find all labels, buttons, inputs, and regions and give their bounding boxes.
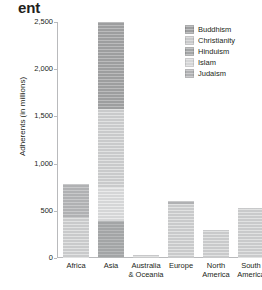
legend-label: Hinduism <box>198 47 229 56</box>
bar-segment-christianity[interactable] <box>63 218 89 258</box>
legend-rows: BuddhismChristianityHinduismIslamJudaism <box>185 24 235 79</box>
y-axis-label: Adherents (in millions) <box>18 47 27 187</box>
bar-segment-buddhism[interactable] <box>98 22 124 109</box>
legend-label: Judaism <box>198 69 226 78</box>
legend-swatch-islam <box>185 58 194 67</box>
bar-segment-christianity[interactable] <box>168 204 194 258</box>
bar-north-america[interactable] <box>203 230 229 258</box>
y-tick-label: 2,500 <box>34 18 53 26</box>
legend-item-islam[interactable]: Islam <box>185 57 235 68</box>
bar-south-america[interactable] <box>238 208 262 258</box>
x-tick-label-line2: America <box>225 271 262 280</box>
legend-item-christianity[interactable]: Christianity <box>185 35 235 46</box>
legend-label: Buddhism <box>198 25 231 34</box>
bar-segment-hinduism[interactable] <box>98 221 124 258</box>
legend-swatch-judaism <box>185 69 194 78</box>
y-tick-label: 500 <box>40 207 53 215</box>
bar-segment-christianity[interactable] <box>133 256 159 258</box>
legend-swatch-christianity <box>185 36 194 45</box>
y-tick-mark <box>54 258 57 259</box>
bar-segment-islam[interactable] <box>98 188 124 221</box>
x-tick-label-line2: & Oceania <box>120 271 172 280</box>
y-tick-label: 1,000 <box>34 160 53 168</box>
bar-segment-christianity[interactable] <box>98 109 124 188</box>
bar-segment-judaism[interactable] <box>63 184 89 218</box>
y-tick-mark <box>54 164 57 165</box>
x-tick-label: SouthAmerica <box>225 262 262 279</box>
y-tick-mark <box>54 69 57 70</box>
y-tick-label: 1,500 <box>34 113 53 121</box>
legend-item-buddhism[interactable]: Buddhism <box>185 24 235 35</box>
y-tick-label: 2,000 <box>34 65 53 73</box>
bar-asia[interactable] <box>98 22 124 258</box>
bar-segment-christianity[interactable] <box>238 209 262 258</box>
bar-segment-christianity[interactable] <box>203 231 229 258</box>
legend-item-hinduism[interactable]: Hinduism <box>185 46 235 57</box>
legend-label: Christianity <box>198 36 235 45</box>
y-axis-line <box>57 22 58 258</box>
legend-label: Islam <box>198 58 216 67</box>
y-tick-label: 0 <box>49 254 53 262</box>
bar-europe[interactable] <box>168 201 194 258</box>
chart-title-text: ent <box>18 0 40 16</box>
legend-item-judaism[interactable]: Judaism <box>185 68 235 79</box>
stacked-bar-chart: ent Adherents (in millions) 05001,0001,5… <box>0 0 262 290</box>
y-tick-mark <box>54 116 57 117</box>
legend-swatch-buddhism <box>185 25 194 34</box>
legend: BuddhismChristianityHinduismIslamJudaism <box>185 24 235 79</box>
bar-australia-oceania[interactable] <box>133 255 159 258</box>
y-tick-mark <box>54 22 57 23</box>
legend-swatch-hinduism <box>185 47 194 56</box>
bar-africa[interactable] <box>63 184 89 258</box>
y-tick-mark <box>54 211 57 212</box>
